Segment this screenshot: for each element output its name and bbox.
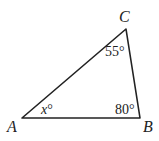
triangle-diagram: C A B 55° 80° x° [0,0,159,141]
vertex-label-a: A [6,118,17,135]
angle-a-degree: ° [47,102,53,117]
angle-a-label: x° [40,102,53,117]
angle-c-label: 55° [105,44,125,59]
angle-b-label: 80° [115,102,135,117]
vertex-label-b: B [143,118,153,135]
vertex-label-c: C [119,8,130,25]
